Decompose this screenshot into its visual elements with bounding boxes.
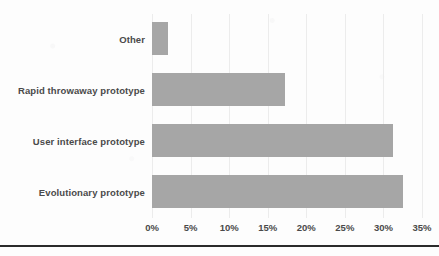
- x-axis-tick-labels: 0%5%10%15%20%25%30%35%: [152, 222, 422, 236]
- gridline-35pct: [422, 14, 423, 218]
- x-tick-label: 0%: [145, 222, 159, 233]
- x-tick-label: 35%: [412, 222, 431, 233]
- plot-area: OtherRapid throwaway prototypeUser inter…: [152, 14, 422, 218]
- bar: [152, 124, 393, 157]
- bar-row: Evolutionary prototype: [152, 167, 422, 218]
- x-tick-label: 25%: [335, 222, 354, 233]
- x-tick-label: 30%: [374, 222, 393, 233]
- category-label: Evolutionary prototype: [39, 167, 145, 218]
- bar: [152, 175, 403, 208]
- x-tick-label: 15%: [258, 222, 277, 233]
- x-tick-label: 10%: [220, 222, 239, 233]
- bottom-divider-rule: [0, 245, 439, 247]
- bar-row: Rapid throwaway prototype: [152, 65, 422, 116]
- bar-row: User interface prototype: [152, 116, 422, 167]
- bar: [152, 73, 285, 106]
- bar: [152, 22, 168, 55]
- category-label: User interface prototype: [33, 116, 145, 167]
- category-label: Other: [119, 14, 145, 65]
- x-tick-label: 20%: [297, 222, 316, 233]
- bar-row: Other: [152, 14, 422, 65]
- category-label: Rapid throwaway prototype: [18, 65, 145, 116]
- bar-chart-figure: OtherRapid throwaway prototypeUser inter…: [0, 0, 439, 256]
- x-tick-label: 5%: [184, 222, 198, 233]
